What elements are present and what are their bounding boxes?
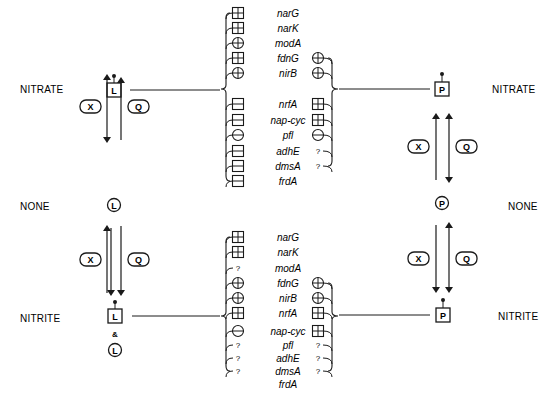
left-bracket	[221, 13, 230, 181]
effect-unknown-icon: ?	[236, 354, 241, 363]
effect-circle-plus-icon	[233, 38, 244, 49]
effect-circle-minus-icon	[233, 130, 244, 141]
left-regulator-phosphorylated-nitrite: L	[108, 300, 122, 323]
gene-panels: narGnarKmodAfdnGnirBnrfAnap-cycpfladhEdm…	[221, 8, 338, 390]
effect-box-minus-icon	[233, 115, 244, 126]
svg-text:?: ?	[316, 367, 321, 376]
effect-box-plus-icon	[233, 53, 244, 64]
nitrate_panel: narGnarKmodAfdnGnirBnrfAnap-cycpfladhEdm…	[221, 8, 338, 188]
effect-circle-plus-icon	[313, 53, 324, 64]
effect-unknown-icon: ?	[236, 341, 241, 350]
gene-label-frdA: frdA	[279, 379, 298, 390]
svg-text:Q: Q	[463, 254, 470, 264]
effect-circle-plus-icon	[233, 293, 244, 304]
right-bracket	[328, 283, 338, 371]
effect-box-plus-icon	[233, 247, 244, 258]
phosphatase-pill-right-top: Q	[456, 140, 477, 153]
gene-label-nrfA: nrfA	[279, 308, 298, 319]
gene-label-narK: narK	[277, 247, 299, 258]
svg-text:?: ?	[236, 264, 241, 273]
effect-unknown-icon: ?	[316, 367, 321, 376]
gene-label-dmsA: dmsA	[275, 161, 301, 172]
gene-label-nirB: nirB	[279, 68, 297, 79]
svg-text:X: X	[87, 255, 93, 265]
gene-label-frdA: frdA	[279, 176, 298, 187]
gene-label-modA: modA	[275, 263, 301, 274]
svg-text:L: L	[111, 201, 117, 211]
effect-circle-minus-icon	[313, 130, 324, 141]
svg-text:X: X	[87, 102, 93, 112]
gene-label-nap-cyc: nap-cyc	[270, 115, 305, 126]
effect-box-plus-icon	[233, 308, 244, 319]
effect-unknown-icon: ?	[316, 354, 321, 363]
kinase-pill-left-top: X	[80, 100, 101, 113]
effect-box-plus-icon	[233, 232, 244, 243]
gene-label-nap-cyc: nap-cyc	[270, 326, 305, 337]
gene-label-fdnG: fdnG	[277, 53, 299, 64]
ampersand: &	[112, 330, 118, 339]
gene-label-nrfA: nrfA	[279, 99, 298, 110]
right-regulator-unphosphorylated: P	[436, 197, 449, 210]
svg-text:X: X	[415, 254, 421, 264]
gene-label-adhE: adhE	[276, 353, 300, 364]
svg-text:?: ?	[316, 341, 321, 350]
effect-circle-plus-icon	[233, 68, 244, 79]
right-regulator-phosphorylated-nitrite: P	[436, 298, 450, 322]
effect-circle-plus-icon	[313, 68, 324, 79]
effect-box-plus-icon	[233, 23, 244, 34]
effect-box-plus-icon	[313, 115, 324, 126]
nitrite_panel: narGnarKmodAfdnGnirBnrfAnap-cycpfladhEdm…	[221, 232, 338, 390]
gene-label-dmsA: dmsA	[275, 366, 301, 377]
svg-text:Q: Q	[135, 255, 142, 265]
gene-label-narG: narG	[277, 232, 299, 243]
phosphatase-pill-left-bottom: Q	[128, 253, 149, 266]
effect-box-minus-icon	[233, 99, 244, 110]
effect-box-minus-icon	[233, 146, 244, 157]
gene-label-pfl: pfl	[282, 340, 294, 351]
effect-unknown-icon: ?	[316, 162, 321, 171]
effect-box-minus-icon	[233, 161, 244, 172]
condition-label-nitrate-right: NITRATE	[492, 84, 536, 95]
kinase-pill-left-bottom: X	[80, 253, 101, 266]
effect-circle-minus-icon	[233, 326, 244, 337]
condition-label-nitrite-right: NITRITE	[498, 311, 538, 322]
svg-text:L: L	[112, 346, 118, 356]
svg-text:L: L	[112, 312, 118, 322]
effect-box-plus-icon	[313, 99, 324, 110]
gene-label-narG: narG	[277, 8, 299, 19]
phosphatase-pill-left-top: Q	[128, 100, 149, 113]
condition-label-nitrite-left: NITRITE	[20, 313, 60, 324]
left-regulator-phosphorylated-nitrate: L	[107, 74, 121, 97]
effect-circle-plus-icon	[233, 278, 244, 289]
gene-label-pfl: pfl	[282, 130, 294, 141]
condition-label-none-right: NONE	[508, 201, 538, 212]
left-regulator-unphosphorylated: L	[108, 199, 121, 212]
svg-text:P: P	[440, 311, 446, 321]
effect-box-minus-icon	[233, 176, 244, 187]
svg-text:X: X	[415, 142, 421, 152]
gene-label-narK: narK	[277, 23, 299, 34]
svg-text:?: ?	[236, 367, 241, 376]
regulator-letter: L	[111, 86, 117, 96]
effect-box-plus-icon	[233, 8, 244, 19]
svg-text:?: ?	[236, 341, 241, 350]
svg-text:Q: Q	[463, 142, 470, 152]
svg-text:P: P	[439, 85, 445, 95]
kinase-pill-right-bottom: X	[408, 252, 429, 265]
regulation-diagram: NITRATE NONE NITRITE NITRATE NONE NITRIT…	[0, 0, 558, 399]
gene-label-fdnG: fdnG	[277, 278, 299, 289]
effect-unknown-icon: ?	[316, 341, 321, 350]
svg-text:?: ?	[316, 354, 321, 363]
phosphatase-pill-right-bottom: Q	[456, 252, 477, 265]
effect-circle-plus-icon	[313, 293, 324, 304]
svg-text:Q: Q	[135, 102, 142, 112]
effect-unknown-icon: ?	[236, 367, 241, 376]
left-regulator-unphosphorylated-nitrite: L	[109, 344, 122, 357]
effect-box-plus-icon	[313, 326, 324, 337]
kinase-pill-right-top: X	[408, 140, 429, 153]
effect-circle-plus-icon	[313, 278, 324, 289]
svg-text:?: ?	[316, 147, 321, 156]
gene-label-nirB: nirB	[279, 293, 297, 304]
condition-label-nitrate-left: NITRATE	[20, 84, 64, 95]
gene-label-modA: modA	[275, 38, 301, 49]
